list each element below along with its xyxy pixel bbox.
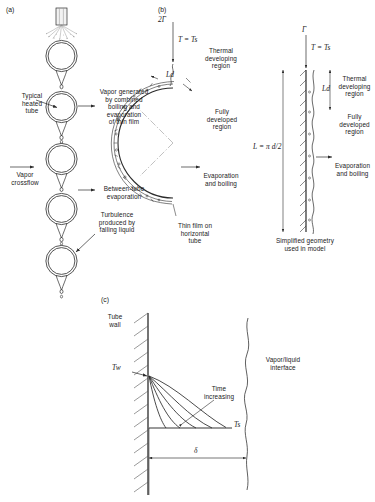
panel-c-wall-hatching — [134, 313, 148, 492]
figure-root: (a) Typical heated tube Vapor generated … — [0, 0, 375, 502]
thermal-region-boundary — [186, 78, 191, 83]
vapor-liquid-interface-line — [244, 318, 248, 490]
label-fully-developed-region-b: Fully developed region — [198, 108, 246, 131]
label-tube-wall: Tube wall — [98, 313, 132, 328]
label-vapor-liquid-interface: Vapor/liquid interface — [258, 356, 308, 371]
label-thin-film-horizontal-tube: Thin film on horizontal tube — [168, 222, 222, 245]
label-turbulence: Turbulence produced by falling liquid — [86, 211, 148, 234]
panel-c-graphics — [132, 313, 249, 495]
label-evaporation-boiling-right: Evaporation and boiling — [330, 162, 375, 177]
label-time-increasing: Time increasing — [196, 385, 242, 400]
spray-droplet-dots — [46, 33, 77, 40]
label-inlet-flow-gamma: Γ — [302, 26, 306, 34]
label-developing-length-right: Ld — [322, 85, 330, 93]
panel-b-id: (b) — [158, 6, 166, 13]
label-developing-length-b: Ld — [166, 71, 174, 79]
label-thermal-developing-region-b: Thermal developing region — [195, 47, 247, 70]
profile-curve-4 — [149, 376, 212, 428]
simplified-wall-hatching — [300, 70, 306, 232]
label-vapor-crossflow: Vapor crossflow — [2, 171, 48, 186]
ld-span-left — [151, 76, 158, 79]
tube-3 — [46, 143, 77, 191]
label-inlet-flow-2gamma: 2Γ — [158, 16, 166, 24]
spray-nozzle-icon — [56, 8, 67, 25]
simplified-film-surface — [312, 70, 314, 234]
panel-c-id: (c) — [101, 296, 109, 303]
label-vapor-generated: Vapor generated by combined boiling and … — [93, 88, 155, 126]
tube-1 — [46, 40, 77, 88]
label-simplified-geometry: Simplified geometry used in model — [256, 237, 354, 252]
label-film-thickness-delta: δ — [194, 447, 198, 455]
panel-a-id: (a) — [6, 6, 14, 13]
ld-span-right — [183, 84, 192, 91]
tube-4 — [46, 193, 77, 245]
spray-droplets — [46, 25, 77, 40]
leader-thin-film — [173, 204, 176, 216]
label-wall-temperature: Tw — [112, 364, 121, 372]
label-thermal-developing-region-right: Thermal developing region — [334, 75, 375, 98]
label-fully-developed-region-right: Fully developed region — [334, 113, 375, 136]
panel-a-graphics — [10, 8, 95, 298]
simplified-bubbles — [309, 91, 311, 221]
label-evaporation-boiling-b: Evaporation and boiling — [193, 172, 249, 187]
label-typical-heated-tube: Typical heated tube — [6, 92, 58, 115]
leader-time-increasing — [182, 400, 214, 424]
arrow-turbulence — [76, 234, 95, 252]
label-saturation-temp-b-right: T = Ts — [311, 44, 331, 52]
tube-5 — [46, 245, 77, 298]
label-saturation-temp-b: T = Ts — [178, 36, 198, 44]
label-between-tube-evaporation: Between-tube evaporation — [93, 185, 155, 200]
label-saturation-temp-c: Ts — [234, 421, 241, 429]
profile-curve-3 — [149, 376, 196, 428]
tube-centerline — [140, 143, 173, 176]
panel-b-simplified-graphics — [283, 35, 332, 234]
arrow-wall-temperature — [132, 372, 147, 376]
label-arc-length: L = π d/2 — [253, 143, 282, 151]
